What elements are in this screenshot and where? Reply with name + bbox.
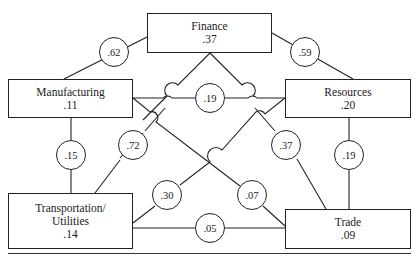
coef-manufacturing-resources: .19	[195, 83, 225, 113]
coef-finance-resources: .59	[290, 37, 320, 67]
coef-manufacturing-trade: .07	[237, 180, 267, 210]
node-label: Finance	[191, 20, 227, 33]
coef-finance-transportation: .72	[118, 130, 148, 160]
node-value: .09	[341, 229, 355, 242]
node-label-line1: Transportation/	[35, 202, 106, 215]
node-value: .14	[63, 228, 77, 241]
node-label: Resources	[324, 86, 371, 99]
node-value: .20	[341, 99, 355, 112]
node-finance: Finance .37	[147, 13, 272, 53]
node-label-line2: Utilities	[52, 215, 89, 228]
coef-resources-transportation: .30	[152, 180, 182, 210]
coef-transportation-trade: .05	[195, 213, 225, 243]
coef-resources-trade: .19	[334, 140, 364, 170]
node-label: Manufacturing	[36, 86, 104, 99]
coef-finance-trade: .37	[271, 130, 301, 160]
coef-manufacturing-transportation: .15	[56, 140, 86, 170]
node-manufacturing: Manufacturing .11	[8, 79, 133, 118]
coef-manufacturing-finance: .62	[99, 37, 129, 67]
node-transportation-utilities: Transportation/ Utilities .14	[8, 193, 133, 249]
node-value: .37	[202, 33, 216, 46]
node-value: .11	[64, 99, 78, 112]
bottom-rule	[8, 253, 411, 254]
node-resources: Resources .20	[285, 79, 411, 118]
node-trade: Trade .09	[285, 209, 411, 249]
node-label: Trade	[335, 216, 361, 229]
